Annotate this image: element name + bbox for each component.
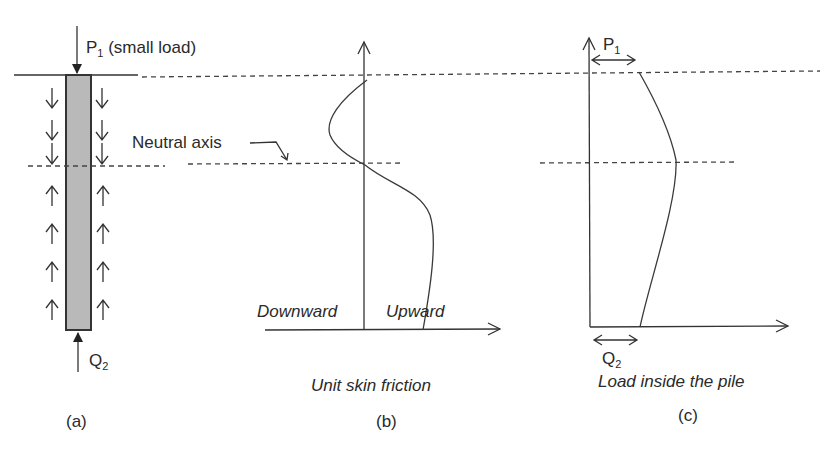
p1-label-c: P1 bbox=[603, 35, 620, 56]
x-axis-label-c: Load inside the pile bbox=[598, 372, 745, 391]
downward-label: Downward bbox=[257, 302, 338, 321]
neutral-axis-dashed-line-c bbox=[540, 162, 736, 163]
caption-c: (c) bbox=[678, 406, 698, 425]
depth-axis-c bbox=[589, 38, 590, 327]
friction-axis-b bbox=[265, 329, 500, 330]
q2-label: Q2 bbox=[89, 351, 108, 372]
x-axis-label-b: Unit skin friction bbox=[311, 376, 431, 395]
pile-neutral-axis-figure: P1 (small load) Q2 (a) bbox=[0, 0, 820, 453]
unit-skin-friction-curve bbox=[329, 80, 433, 330]
neutral-axis-callout: Neutral axis bbox=[132, 133, 288, 160]
p1-label: P1 (small load) bbox=[86, 38, 196, 59]
upward-label: Upward bbox=[386, 302, 445, 321]
neutral-axis-pointer-icon bbox=[250, 142, 288, 160]
neutral-axis-label: Neutral axis bbox=[132, 133, 222, 152]
q2-label-c: Q2 bbox=[602, 349, 621, 370]
q2-double-arrow-icon bbox=[594, 335, 637, 345]
caption-b: (b) bbox=[376, 412, 397, 431]
ground-level-dashed-line bbox=[142, 71, 820, 77]
panel-c: P1 Q2 Load inside the pile (c) bbox=[540, 35, 788, 425]
pile-load-curve bbox=[639, 72, 676, 327]
pile-shaft bbox=[66, 75, 91, 330]
panel-b: Downward Upward Unit skin friction (b) bbox=[188, 42, 500, 431]
caption-a: (a) bbox=[66, 412, 87, 431]
p1-double-arrow-icon bbox=[592, 55, 635, 65]
load-axis-c bbox=[590, 326, 788, 327]
panel-a: P1 (small load) Q2 (a) bbox=[14, 26, 820, 431]
neutral-axis-dashed-line-b bbox=[188, 163, 404, 164]
